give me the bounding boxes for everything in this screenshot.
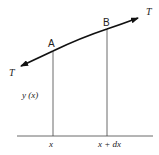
string-curve xyxy=(53,29,107,51)
point-a-label: A xyxy=(48,38,55,49)
tension-arrow-left xyxy=(21,51,53,66)
string-tension-diagram: A B T T y (x) x x + dx xyxy=(0,0,159,155)
tension-arrow-right xyxy=(107,18,138,29)
x-label: x xyxy=(48,139,53,149)
tension-right-label: T xyxy=(146,6,153,17)
tension-left-label: T xyxy=(9,67,16,78)
displacement-label: y (x) xyxy=(21,90,38,100)
x-plus-dx-label: x + dx xyxy=(97,139,121,149)
point-b-label: B xyxy=(103,17,110,28)
